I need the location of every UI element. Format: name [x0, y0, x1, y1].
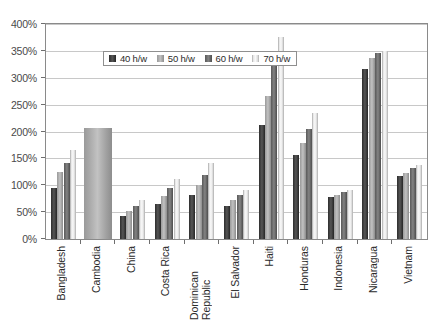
bar [196, 185, 202, 239]
bar [293, 155, 299, 239]
bar [265, 96, 271, 240]
legend-label: 40 h/w [120, 53, 147, 64]
bar [341, 192, 347, 239]
bar [306, 129, 312, 239]
bar [155, 204, 161, 239]
bar [120, 216, 126, 239]
legend-label: 60 h/w [216, 53, 243, 64]
x-axis-tick-mark [357, 240, 358, 244]
bar [230, 200, 236, 239]
x-axis-tick-mark [80, 240, 81, 244]
bar [189, 195, 195, 239]
bar-group [323, 24, 358, 239]
bar [161, 196, 167, 239]
bar [382, 51, 388, 239]
x-axis-category-label: Cambodia [91, 246, 103, 293]
x-axis-tick-mark [114, 240, 115, 244]
bar [70, 150, 76, 239]
y-axis-tick-mark [41, 211, 45, 212]
x-axis-tick-mark [253, 240, 254, 244]
x-axis-tick-mark [287, 240, 288, 244]
bar-group [392, 24, 427, 239]
bar [334, 195, 340, 239]
plot-area: 40 h/w50 h/w60 h/w70 h/w [45, 23, 428, 240]
x-axis-category-label: Honduras [299, 246, 311, 291]
legend-item: 70 h/w [252, 53, 290, 64]
bar [328, 197, 334, 239]
legend-swatch-icon [157, 55, 164, 62]
y-axis-tick-mark [41, 184, 45, 185]
bar [271, 66, 277, 239]
bar [51, 188, 57, 239]
x-axis-category-label: Haiti [264, 246, 276, 267]
bar [126, 211, 132, 239]
legend-label: 50 h/w [168, 53, 195, 64]
x-axis-category-label: Nicaragua [368, 246, 380, 293]
y-axis-tick-mark [41, 238, 45, 239]
chart-legend: 40 h/w50 h/w60 h/w70 h/w [103, 51, 297, 66]
bar [375, 53, 381, 240]
y-axis-tick-mark [41, 23, 45, 24]
legend-swatch-icon [252, 55, 259, 62]
bar [224, 206, 230, 239]
legend-item: 60 h/w [205, 53, 243, 64]
bar [312, 113, 318, 239]
legend-swatch-icon [109, 55, 116, 62]
x-axis-category-label: Dominican Republic [189, 246, 213, 320]
x-axis-labels: BangladeshCambodiaChinaCosta RicaDominic… [45, 246, 428, 320]
y-axis-tick-label: 250% [11, 99, 37, 111]
y-axis-tick-label: 400% [11, 18, 37, 30]
bar [347, 190, 353, 239]
x-axis-tick-mark [184, 240, 185, 244]
bar [174, 179, 180, 239]
bar [208, 163, 214, 239]
bar [300, 143, 306, 239]
x-axis-tick-mark [391, 240, 392, 244]
bar [362, 69, 368, 239]
y-axis-tick-mark [41, 157, 45, 158]
bar [202, 175, 208, 240]
bar [64, 163, 70, 239]
x-axis-category-label: Vietnam [403, 246, 415, 284]
bar [237, 195, 243, 239]
y-axis-tick-label: 0% [22, 233, 37, 245]
bar-group [358, 24, 393, 239]
x-axis-category-label: China [126, 246, 138, 273]
y-axis-tick-mark [41, 77, 45, 78]
bar [410, 168, 416, 239]
bar [403, 173, 409, 239]
bar-group [46, 24, 81, 239]
x-axis-tick-mark [149, 240, 150, 244]
y-axis: 0%50%100%150%200%250%300%350%400% [0, 23, 41, 240]
bar [259, 125, 265, 239]
legend-item: 50 h/w [157, 53, 195, 64]
bar [397, 176, 403, 239]
x-axis-tick-mark [322, 240, 323, 244]
bar [416, 165, 422, 239]
y-axis-tick-label: 350% [11, 45, 37, 57]
bar [133, 206, 139, 239]
x-axis-tick-mark [218, 240, 219, 244]
bar [84, 128, 112, 239]
x-axis-category-label: Costa Rica [160, 246, 172, 296]
y-axis-tick-label: 200% [11, 126, 37, 138]
y-axis-tick-mark [41, 50, 45, 51]
y-axis-tick-mark [41, 104, 45, 105]
legend-swatch-icon [205, 55, 212, 62]
bar [57, 172, 63, 239]
bar [278, 37, 284, 239]
legend-item: 40 h/w [109, 53, 147, 64]
x-axis-category-label: Bangladesh [56, 246, 68, 300]
y-axis-tick-label: 50% [17, 206, 37, 218]
y-axis-tick-label: 100% [11, 179, 37, 191]
bar [369, 58, 375, 239]
x-axis-category-label: Indonesia [333, 246, 345, 291]
bar-chart: 0%50%100%150%200%250%300%350%400% 40 h/w… [0, 0, 434, 320]
x-axis-ticks [45, 240, 428, 245]
y-axis-tick-mark [41, 131, 45, 132]
x-axis-category-label: El Salvador [230, 246, 242, 299]
y-axis-tick-label: 300% [11, 72, 37, 84]
y-axis-tick-label: 150% [11, 152, 37, 164]
legend-label: 70 h/w [263, 53, 290, 64]
bar [139, 200, 145, 239]
